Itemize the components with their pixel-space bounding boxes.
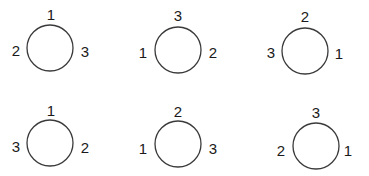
circle-3-top-label: 2 [301, 9, 309, 24]
circle-6-right-label: 1 [344, 143, 352, 158]
circle-4-left-label: 3 [12, 139, 20, 154]
circle-3-right-label: 1 [335, 46, 343, 61]
circle-4 [27, 120, 73, 166]
circle-3-left-label: 3 [267, 45, 275, 60]
circle-5-right-label: 3 [209, 141, 217, 156]
circle-1-top-label: 1 [47, 7, 55, 22]
circles-layer [0, 0, 369, 176]
circle-4-right-label: 2 [81, 140, 89, 155]
diagram-canvas: 1 2 3 3 1 2 2 3 1 1 3 2 2 1 3 3 2 1 [0, 0, 369, 176]
circle-5 [155, 121, 201, 167]
circle-2 [155, 27, 201, 73]
circle-6 [293, 123, 339, 169]
circle-2-left-label: 1 [139, 45, 147, 60]
circle-1-left-label: 2 [12, 43, 20, 58]
circle-3 [282, 28, 328, 74]
circle-6-left-label: 2 [277, 143, 285, 158]
circle-5-top-label: 2 [174, 104, 182, 119]
circle-4-top-label: 1 [47, 103, 55, 118]
circle-2-right-label: 2 [209, 45, 217, 60]
circle-1 [27, 25, 73, 71]
circle-5-left-label: 1 [139, 141, 147, 156]
circle-2-top-label: 3 [174, 8, 182, 23]
circle-6-top-label: 3 [312, 105, 320, 120]
circle-1-right-label: 3 [81, 44, 89, 59]
